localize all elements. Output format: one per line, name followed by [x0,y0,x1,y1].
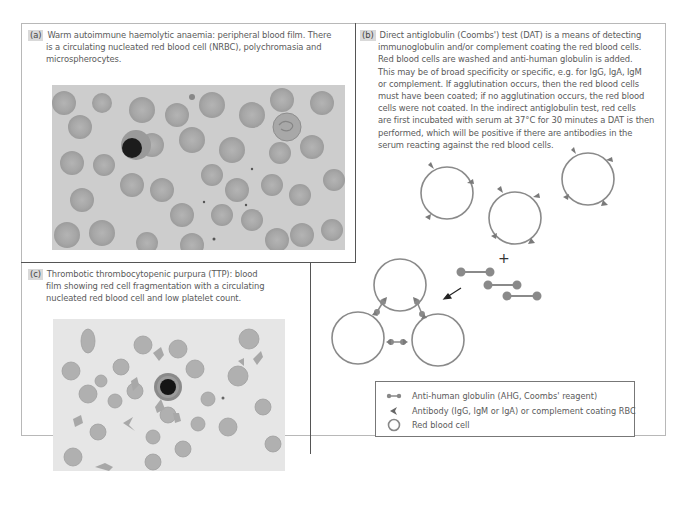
ahg-dumbbell-icon [386,391,402,401]
agglutinated-red-cell [412,314,464,366]
legend-item-antibody: Antibody (IgG, IgM or IgA) or complement… [376,406,634,420]
agglutinated-red-cell [332,312,384,364]
antibody-arrowhead-icon [386,406,402,416]
ahg-bridges [375,300,424,344]
legend-item-red-cell: Red blood cell [376,420,634,434]
antibody-markers [425,147,613,244]
coated-red-cell [562,153,614,205]
diagram-legend: Anti-human globulin (AHG, Coombs' reagen… [375,381,635,437]
free-ahg-molecules [458,269,541,300]
coombs-test-diagram: + [0,0,688,516]
coated-red-cell [421,167,473,219]
plus-symbol: + [498,250,510,266]
arrow-icon [444,288,461,299]
coated-red-cell [489,192,541,244]
red-cell-circle-icon [386,418,402,432]
legend-item-ahg: Anti-human globulin (AHG, Coombs' reagen… [376,391,634,405]
